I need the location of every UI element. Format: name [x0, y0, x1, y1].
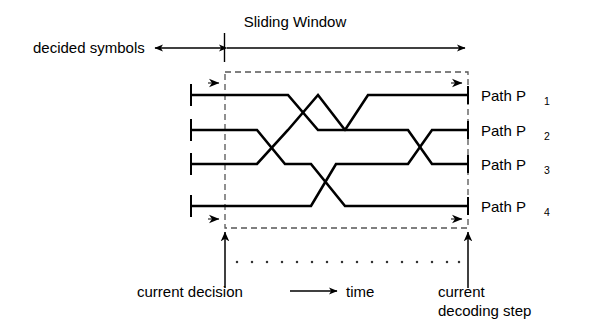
- trellis-paths: [191, 95, 468, 206]
- path-label-4-text: Path P: [481, 198, 526, 215]
- path-label-3-subscript: 3: [544, 164, 550, 176]
- path-label-4-subscript: 4: [544, 206, 550, 218]
- trellis-diagram-figure: Sliding Window decided symbols: [0, 0, 589, 336]
- trellis-path-4: [191, 130, 468, 206]
- time-axis-dots: [236, 261, 461, 264]
- current-decoding-step-label-line2: decoding step: [438, 302, 531, 319]
- path-label-2-text: Path P: [481, 122, 526, 139]
- path-label-3-text: Path P: [481, 156, 526, 173]
- time-label: time: [346, 283, 374, 300]
- trellis-path-1: [191, 95, 468, 130]
- decided-symbols-label: decided symbols: [33, 39, 145, 56]
- current-decision-label: current decision: [137, 283, 243, 300]
- sliding-window-title: Sliding Window: [244, 13, 347, 30]
- path-labels: Path P 1 Path P 2 Path P 3 Path P 4: [481, 87, 550, 218]
- current-decoding-step-label-line1: current: [438, 283, 486, 300]
- path-label-1-subscript: 1: [544, 95, 550, 107]
- diagram-canvas: Sliding Window decided symbols: [0, 0, 589, 336]
- path-label-2-subscript: 2: [544, 130, 550, 142]
- path-label-1-text: Path P: [481, 87, 526, 104]
- trellis-path-2: [191, 130, 468, 206]
